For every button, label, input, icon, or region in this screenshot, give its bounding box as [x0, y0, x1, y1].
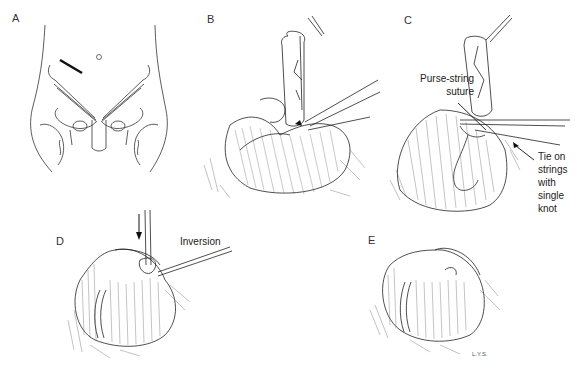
panel-c: C Purse-string suture Tie on strings wit…: [380, 0, 581, 230]
panel-b: B: [190, 0, 390, 200]
purse-string-label: Purse-string suture: [408, 72, 474, 98]
abdomen-illustration: [0, 0, 190, 190]
umbilicus: [97, 55, 102, 60]
incision-mark: [60, 60, 82, 73]
illustrator-signature: L.Y.S.: [472, 348, 488, 361]
cecum-clamp-illustration: [190, 0, 390, 200]
inversion-label: Inversion: [180, 235, 221, 248]
panel-d: D Inversion: [0, 210, 260, 372]
closure-illustration: [300, 220, 581, 372]
panel-e: E L.Y.S.: [300, 220, 581, 372]
panel-a: A: [0, 0, 190, 190]
tie-label: Tie on strings with single knot: [538, 150, 567, 215]
inversion-illustration: [0, 210, 260, 372]
tie-leader: [516, 146, 534, 160]
